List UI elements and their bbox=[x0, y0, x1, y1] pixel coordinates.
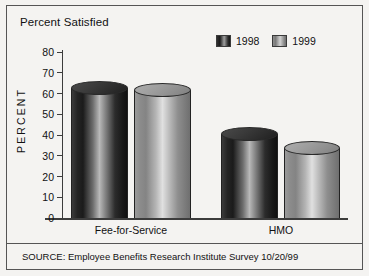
y-tick-10: 10 bbox=[38, 191, 62, 203]
x-axis-line bbox=[45, 218, 348, 220]
source-note: SOURCE: Employee Benefits Research Insti… bbox=[22, 251, 298, 262]
bar-top-ellipse bbox=[284, 141, 340, 155]
bar-hmo-1998 bbox=[221, 127, 278, 218]
bar-body bbox=[284, 148, 340, 218]
y-tick-mark bbox=[57, 135, 62, 136]
y-tick-0: 0 bbox=[38, 212, 62, 224]
y-tick-40: 40 bbox=[38, 129, 62, 141]
bar-top-ellipse bbox=[134, 83, 191, 97]
legend-label-1999: 1999 bbox=[292, 35, 315, 47]
chart-legend: 1998 1999 bbox=[216, 35, 316, 47]
legend-item-1999: 1999 bbox=[272, 35, 315, 47]
y-tick-50: 50 bbox=[38, 108, 62, 120]
y-tick-20: 20 bbox=[38, 171, 62, 183]
chart-figure: Percent Satisfied 1998 1999 PERCENT 0 10… bbox=[0, 0, 369, 276]
y-tick-mark bbox=[57, 52, 62, 53]
y-tick-mark bbox=[57, 93, 62, 94]
legend-swatch-1998 bbox=[216, 35, 231, 47]
bar-fee-for-service-1998 bbox=[71, 81, 128, 218]
y-tick-mark bbox=[57, 72, 62, 73]
bar-body bbox=[71, 88, 128, 218]
footer-divider bbox=[7, 243, 362, 244]
y-tick-mark bbox=[57, 176, 62, 177]
y-tick-label-30: 30 bbox=[38, 150, 54, 162]
bar-top-ellipse bbox=[71, 81, 128, 95]
y-axis-title: PERCENT bbox=[15, 88, 27, 153]
x-axis-label-hmo: HMO bbox=[269, 224, 294, 236]
y-tick-mark bbox=[57, 155, 62, 156]
chart-title: Percent Satisfied bbox=[20, 16, 109, 28]
y-tick-label-0: 0 bbox=[38, 212, 54, 224]
y-tick-label-50: 50 bbox=[38, 108, 54, 120]
y-tick-mark bbox=[57, 218, 62, 219]
bar-body bbox=[134, 90, 191, 218]
bar-hmo-1999 bbox=[284, 141, 340, 218]
y-tick-label-10: 10 bbox=[38, 191, 54, 203]
y-tick-mark bbox=[57, 114, 62, 115]
y-tick-80: 80 bbox=[38, 46, 62, 58]
plot-area: 0 10 20 30 40 50 60 70 80 bbox=[62, 52, 347, 218]
bar-body bbox=[221, 134, 278, 218]
x-axis-label-fee-for-service: Fee-for-Service bbox=[95, 224, 167, 236]
y-tick-70: 70 bbox=[38, 67, 62, 79]
y-tick-label-60: 60 bbox=[38, 88, 54, 100]
y-tick-label-20: 20 bbox=[38, 171, 54, 183]
bar-fee-for-service-1999 bbox=[134, 83, 191, 218]
y-tick-mark bbox=[57, 197, 62, 198]
legend-swatch-1999 bbox=[272, 35, 287, 47]
y-tick-30: 30 bbox=[38, 150, 62, 162]
y-tick-label-80: 80 bbox=[38, 46, 54, 58]
y-tick-label-70: 70 bbox=[38, 67, 54, 79]
bar-top-ellipse bbox=[221, 127, 278, 141]
legend-item-1998: 1998 bbox=[216, 35, 259, 47]
y-tick-label-40: 40 bbox=[38, 129, 54, 141]
legend-label-1998: 1998 bbox=[236, 35, 259, 47]
y-tick-60: 60 bbox=[38, 88, 62, 100]
